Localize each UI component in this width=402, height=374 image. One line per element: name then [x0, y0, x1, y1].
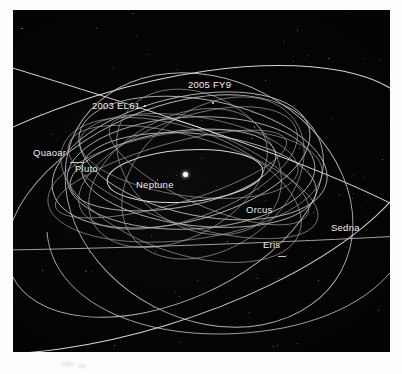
label-sedna: Sedna: [331, 222, 360, 233]
scan-artifact: [60, 362, 74, 366]
figure-page: 2005 FY9 2003 EL61 Quaoar Pluto Neptune …: [0, 0, 402, 374]
marker-2003-el61: [144, 105, 146, 107]
orbit-paths: [13, 10, 390, 352]
label-quaoar: Quaoar: [33, 147, 66, 158]
marker-2005-fy9: [212, 102, 214, 104]
orbit-eris-outer: [20, 24, 390, 352]
orbit-orcus: [77, 122, 321, 238]
sun-marker: [183, 172, 188, 177]
orbit-layer: [13, 10, 390, 352]
scan-artifact: [78, 364, 86, 368]
orbit-tno-f: [89, 59, 308, 264]
label-orcus: Orcus: [246, 204, 273, 215]
orbit-diagram-panel: 2005 FY9 2003 EL61 Quaoar Pluto Neptune …: [13, 10, 390, 352]
leader-eris: [278, 256, 286, 257]
label-2005-fy9: 2005 FY9: [188, 79, 231, 90]
orbit-lower-sweep: [47, 232, 390, 334]
orbit-tno-h: [91, 63, 335, 292]
label-eris: Eris: [263, 239, 280, 250]
orbit-sedna: [13, 10, 390, 352]
label-neptune: Neptune: [136, 179, 174, 190]
label-pluto: Pluto: [75, 163, 98, 174]
label-2003-el61: 2003 EL61: [92, 100, 140, 111]
